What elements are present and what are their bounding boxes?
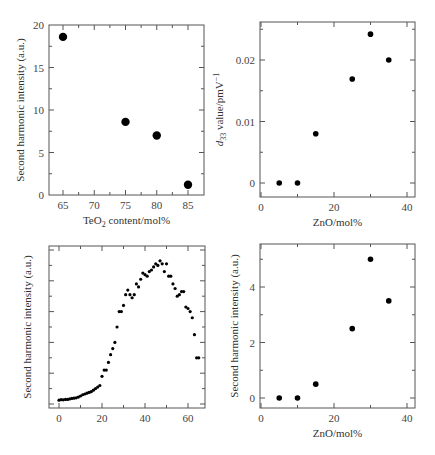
data-point [131,296,134,299]
data-point [165,262,168,265]
data-point [193,333,196,336]
data-point [122,304,125,307]
data-point [98,384,101,387]
data-point [313,131,319,137]
y-tick-label: 0 [250,177,256,189]
data-point [161,262,164,265]
x-tick-label: 70 [89,199,101,211]
chart-bottom-left-intensity-curve: 0204060Second harmonic intensity (a.u.) [21,246,205,424]
data-point [163,270,166,273]
x-axis-title: ZnO/mol% [313,427,363,439]
data-point [139,278,142,281]
x-tick-label: 20 [329,412,341,424]
data-point [349,76,355,82]
data-point [107,361,110,364]
y-tick-label: 4 [250,281,256,293]
data-point [182,290,185,293]
data-point [191,316,194,319]
plot-frame [260,244,415,408]
y-tick-label: 2 [250,337,256,349]
data-point [128,293,131,296]
x-tick-label: 80 [151,199,163,211]
chart-bottom-right-intensity-vs-zno: 02040024ZnO/mol%Second harmonic intensit… [228,244,415,439]
data-point [156,264,159,267]
data-point [120,310,123,313]
x-axis-title: TeO2 content/mol% [83,214,170,229]
data-point [349,326,355,332]
x-tick-label: 0 [56,412,62,424]
data-point [121,118,129,126]
data-point [169,275,172,278]
data-point [186,307,189,310]
data-point [313,381,319,387]
data-point [137,285,140,288]
y-tick-label: 0.02 [236,54,255,66]
data-point [276,395,282,401]
data-point [153,131,161,139]
plot-frame [49,25,204,195]
chart-top-left-teo2-intensity: 657075808505101520TeO2 content/mol%Secon… [14,19,204,229]
y-tick-label: 20 [33,19,45,31]
data-point [197,356,200,359]
data-point [386,57,392,63]
data-point [126,288,129,291]
data-point [105,369,108,372]
data-point [184,181,192,189]
data-point [295,395,301,401]
data-point [133,293,136,296]
data-point [158,259,161,262]
y-tick-label: 15 [33,62,45,74]
data-point [135,282,138,285]
x-tick-label: 40 [402,412,414,424]
data-point [295,180,301,186]
plot-frame [49,246,205,408]
y-tick-label: 5 [39,147,45,159]
data-point [189,310,192,313]
y-axis-title: d33 value/pmV−1 [212,73,228,147]
x-tick-label: 0 [258,412,264,424]
data-point [276,180,282,186]
x-tick-label: 40 [140,412,152,424]
x-tick-label: 20 [329,201,341,213]
x-tick-label: 40 [402,201,414,213]
y-tick-label: 0.01 [236,116,255,128]
data-point [146,275,149,278]
data-point [174,287,177,290]
data-point [152,265,155,268]
y-axis-title: Second harmonic intensity (a.u.) [21,255,34,399]
y-axis-title: Second harmonic intensity (a.u.) [228,254,241,398]
data-point [111,347,114,350]
chart-top-right-d33-vs-zno: 0204000.010.02ZnO/mol%d33 value/pmV−1 [212,22,415,228]
x-tick-label: 20 [97,412,109,424]
x-axis-title: ZnO/mol% [313,216,363,228]
data-point [109,353,112,356]
y-tick-label: 10 [33,104,45,116]
data-point [150,268,153,271]
x-tick-label: 75 [120,199,132,211]
y-tick-label: 0 [250,392,256,404]
x-tick-label: 85 [183,199,195,211]
figure: 657075808505101520TeO2 content/mol%Secon… [0,0,435,455]
data-point [178,293,181,296]
x-tick-label: 0 [258,201,264,213]
data-point [113,341,116,344]
x-tick-label: 60 [183,412,195,424]
data-point [171,282,174,285]
data-point [368,256,374,262]
y-axis-title: Second harmonic intensity (a.u.) [14,38,27,182]
plot-frame [260,22,415,197]
data-point [59,33,67,41]
data-point [368,31,374,37]
data-point [115,325,118,328]
data-point [124,293,127,296]
data-point [100,375,103,378]
data-point [386,298,392,304]
x-tick-label: 65 [58,199,70,211]
y-tick-label: 0 [39,189,45,201]
